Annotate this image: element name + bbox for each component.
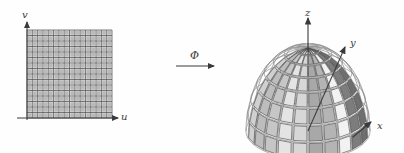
surface-panel (309, 126, 323, 142)
image-surface-graphic (0, 0, 404, 153)
surface-panel (298, 78, 308, 91)
surface-panel (309, 143, 323, 153)
surface-panel (322, 107, 335, 124)
surface-panel (278, 140, 291, 153)
surface-panel (309, 78, 319, 91)
surface-panel (324, 123, 337, 140)
surface-panel (296, 93, 307, 107)
axis-label-x: x (377, 121, 383, 131)
axis-label-y: y (350, 38, 356, 48)
figure-canvas: v u Φ z y x (0, 0, 404, 153)
axis-label-z: z (305, 8, 310, 18)
surface-panel (279, 123, 292, 140)
surface-panel (309, 109, 322, 124)
surface-panel (339, 136, 351, 153)
surface-panel (309, 93, 320, 107)
surface-panel (293, 143, 307, 153)
surface-panel (294, 109, 307, 124)
surface-panel (280, 107, 293, 124)
surface-panel (266, 119, 278, 137)
surface-panel (265, 136, 277, 153)
surface-panel (325, 140, 338, 153)
surface-panel (293, 126, 307, 142)
surface-panel (338, 119, 350, 137)
